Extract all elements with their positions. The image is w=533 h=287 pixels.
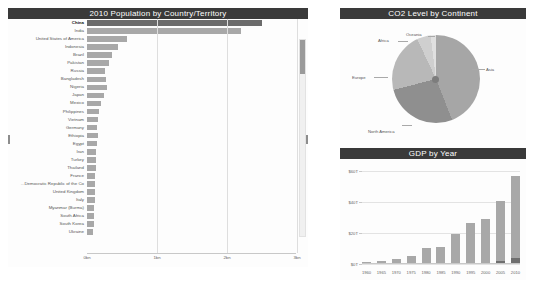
gdp-bar-column[interactable]: 2010 <box>511 171 520 264</box>
population-bar-row[interactable]: Egypt <box>8 140 308 148</box>
population-gridline <box>227 19 228 253</box>
population-bar[interactable] <box>87 221 94 227</box>
population-bar-row[interactable]: Philippines <box>8 108 308 116</box>
vertical-scrollbar[interactable] <box>299 39 306 237</box>
population-category-label: South Korea <box>8 220 87 228</box>
population-category-label: Egypt <box>8 140 87 148</box>
population-bar[interactable] <box>87 109 99 115</box>
population-category-label: Russia <box>8 67 87 75</box>
population-bar[interactable] <box>87 213 94 219</box>
gdp-axis-baseline <box>362 263 520 264</box>
population-bar-track <box>87 220 308 228</box>
population-bar[interactable] <box>87 93 104 99</box>
population-bar[interactable] <box>87 133 98 139</box>
population-bar-row[interactable]: Iran <box>8 148 308 156</box>
population-bar-row[interactable]: India <box>8 27 308 35</box>
population-bar-row[interactable]: Vietnam <box>8 116 308 124</box>
population-bar-row[interactable]: South Africa <box>8 212 308 220</box>
gdp-x-tick-label: 2005 <box>496 270 505 275</box>
population-bar[interactable] <box>87 101 101 107</box>
gdp-bar[interactable] <box>511 176 520 264</box>
population-bar-row[interactable]: Mexico <box>8 99 308 107</box>
left-resize-handle[interactable] <box>8 135 10 144</box>
population-bar[interactable] <box>87 117 98 123</box>
gdp-bar[interactable] <box>481 219 490 264</box>
population-bar[interactable] <box>87 28 241 34</box>
population-bar[interactable] <box>87 68 105 74</box>
population-bar-row[interactable]: Pakistan <box>8 59 308 67</box>
population-bar-row[interactable]: Italy <box>8 196 308 204</box>
population-bar[interactable] <box>87 52 112 58</box>
population-bar-row[interactable]: Democratic Republic of the Co... <box>8 180 308 188</box>
population-bar[interactable] <box>87 20 262 26</box>
population-bar-row[interactable]: Ukraine <box>8 228 308 236</box>
pie-slice-label: Asia <box>486 67 494 72</box>
population-bar-row[interactable]: Thailand <box>8 164 308 172</box>
population-category-label: Mexico <box>8 99 87 107</box>
population-bar[interactable] <box>87 181 95 187</box>
population-bar-row[interactable]: Myanmar (Burma) <box>8 204 308 212</box>
gdp-bar-column[interactable]: 1985 <box>436 171 445 264</box>
population-bar-track <box>87 228 308 236</box>
pie-leader-line <box>398 41 408 42</box>
population-x-tick-label: 3bn <box>293 255 300 260</box>
population-category-label: Turkey <box>8 156 87 164</box>
gdp-bar-column[interactable]: 2000 <box>481 171 490 264</box>
co2-plot-area[interactable]: AsiaNorth AmericaEuropeAfricaOceania <box>340 19 526 140</box>
population-bar[interactable] <box>87 125 97 131</box>
population-category-label: Philippines <box>8 108 87 116</box>
gdp-bar-column[interactable]: 1990 <box>451 171 460 264</box>
gdp-bar-column[interactable]: 2005 <box>496 171 505 264</box>
population-bar[interactable] <box>87 85 107 91</box>
population-bar-row[interactable]: United States of America <box>8 35 308 43</box>
population-bar-row[interactable]: Nigeria <box>8 83 308 91</box>
gdp-bar[interactable] <box>496 201 505 264</box>
population-bar-row[interactable]: Indonesia <box>8 43 308 51</box>
pie-center-hub <box>432 76 439 83</box>
population-bar[interactable] <box>87 189 95 195</box>
gdp-bar[interactable] <box>466 223 475 264</box>
population-bar-track <box>87 91 308 99</box>
population-bar[interactable] <box>87 36 127 42</box>
population-bar-row[interactable]: Turkey <box>8 156 308 164</box>
population-bar-row[interactable]: Germany <box>8 124 308 132</box>
gdp-bar-column[interactable]: 1975 <box>407 171 416 264</box>
gdp-bar-column[interactable]: 1970 <box>392 171 401 264</box>
population-bar[interactable] <box>87 44 118 50</box>
gdp-bar[interactable] <box>422 248 431 264</box>
gdp-plot-area[interactable]: $0T$20T$40T$60T 196019651970197519801985… <box>340 159 526 280</box>
population-bar-row[interactable]: South Korea <box>8 220 308 228</box>
right-resize-handle[interactable] <box>306 135 308 144</box>
gdp-bar-column[interactable]: 1995 <box>466 171 475 264</box>
population-bar[interactable] <box>87 141 97 147</box>
population-bar-track <box>87 140 308 148</box>
population-bar-row[interactable]: Brazil <box>8 51 308 59</box>
population-bar-row[interactable]: Japan <box>8 91 308 99</box>
population-bar-row[interactable]: Ethiopia <box>8 132 308 140</box>
population-category-label: United States of America <box>8 35 87 43</box>
population-bar[interactable] <box>87 77 106 83</box>
population-bar[interactable] <box>87 229 93 235</box>
population-bar-track <box>87 99 308 107</box>
population-bar-track <box>87 19 308 27</box>
population-bar[interactable] <box>87 205 94 211</box>
population-bar-row[interactable]: United Kingdom <box>8 188 308 196</box>
gdp-bar-column[interactable]: 1965 <box>377 171 386 264</box>
population-bar[interactable] <box>87 173 95 179</box>
population-bar[interactable] <box>87 60 109 66</box>
population-bar-row[interactable]: China <box>8 19 308 27</box>
gdp-bar-column[interactable]: 1980 <box>422 171 431 264</box>
population-bar[interactable] <box>87 165 96 171</box>
population-bar[interactable] <box>87 157 96 163</box>
population-plot-area[interactable]: ChinaIndiaUnited States of AmericaIndone… <box>8 19 308 267</box>
population-bar[interactable] <box>87 149 96 155</box>
population-bar-row[interactable]: Bangladesh <box>8 75 308 83</box>
population-bar[interactable] <box>87 197 95 203</box>
pie-leader-line <box>402 125 412 126</box>
population-bar-row[interactable]: Russia <box>8 67 308 75</box>
gdp-bar[interactable] <box>436 247 445 264</box>
scrollbar-thumb[interactable] <box>300 40 305 74</box>
gdp-bar-column[interactable]: 1960 <box>362 171 371 264</box>
gdp-bar[interactable] <box>451 234 460 264</box>
population-bar-row[interactable]: France <box>8 172 308 180</box>
